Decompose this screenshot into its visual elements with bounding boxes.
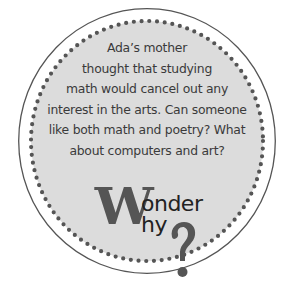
wonder-why-logo: W onder hy [0,0,294,297]
logo-hy: hy [141,214,167,236]
question-mark-icon [168,220,198,282]
